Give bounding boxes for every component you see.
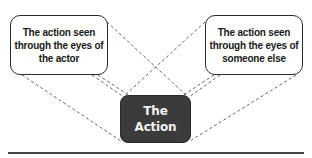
bottom-rule (8, 152, 304, 154)
observer-box-line-1: The action seen (218, 26, 291, 39)
actor-perspective-box: The action seen through the eyes of the … (10, 15, 108, 75)
observer-perspective-box: The action seen through the eyes of some… (205, 15, 303, 75)
actor-box-line-2: through the eyes of (15, 39, 104, 52)
observer-box-line-2: through the eyes of (210, 39, 299, 52)
the-action-box: The Action (120, 95, 191, 143)
observer-box-line-3: someone else (222, 52, 286, 65)
action-box-line-2: Action (135, 119, 177, 135)
actor-box-line-3: the actor (39, 52, 79, 65)
actor-box-line-1: The action seen (23, 26, 96, 39)
action-box-line-1: The (143, 103, 167, 119)
